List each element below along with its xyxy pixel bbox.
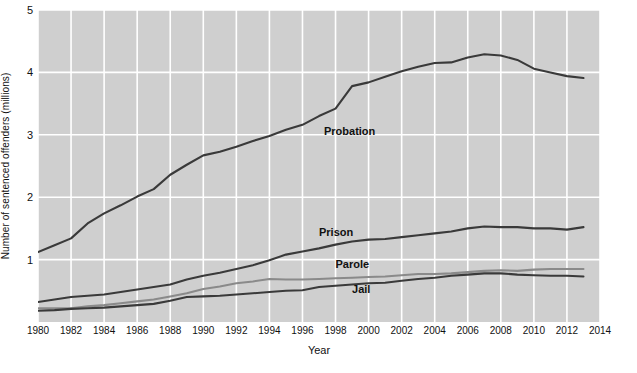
series-label-prison: Prison [319,226,353,238]
x-tick-label: 2012 [556,325,578,336]
x-tick-label: 1982 [60,325,82,336]
series-label-parole: Parole [336,258,370,270]
x-tick-label: 2014 [589,325,611,336]
chart-container: Number of sentenced offenders (millions)… [0,0,637,373]
x-tick-label: 1986 [126,325,148,336]
x-tick-label: 2004 [424,325,446,336]
x-tick-label: 2008 [490,325,512,336]
y-axis-title-wrap: Number of sentenced offenders (millions) [2,10,16,322]
x-tick-label: 1984 [93,325,115,336]
y-axis-title: Number of sentenced offenders (millions) [0,10,11,322]
series-label-jail: Jail [352,283,370,295]
x-tick-label: 1996 [291,325,313,336]
x-tick-label: 1990 [192,325,214,336]
x-axis-title: Year [38,344,600,356]
x-tick-label: 1994 [258,325,280,336]
x-tick-label: 1998 [324,325,346,336]
series-label-probation: Probation [324,125,375,137]
plot-area [38,10,600,322]
x-tick-label: 2000 [357,325,379,336]
x-tick-label: 2002 [391,325,413,336]
x-tick-label: 2006 [457,325,479,336]
x-tick-label: 1988 [159,325,181,336]
series-lines [38,10,600,322]
x-tick-label: 1992 [225,325,247,336]
x-tick-label: 1980 [27,325,49,336]
x-tick-label: 2010 [523,325,545,336]
